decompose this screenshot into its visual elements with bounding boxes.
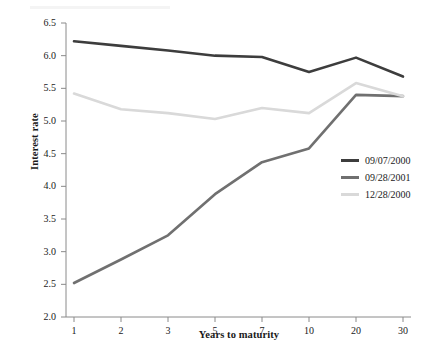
legend-item[interactable]: 09/28/2001 xyxy=(341,169,411,186)
chart-figure: Interest rate Years to maturity 2.02.53.… xyxy=(0,0,432,359)
legend-label: 12/28/2000 xyxy=(365,190,411,200)
legend-item[interactable]: 12/28/2000 xyxy=(341,186,411,203)
legend-swatch-icon xyxy=(341,193,359,196)
series-line xyxy=(74,41,403,76)
legend-swatch-icon xyxy=(341,159,359,162)
legend-label: 09/07/2000 xyxy=(365,156,411,166)
legend-label: 09/28/2001 xyxy=(365,173,411,183)
legend-item[interactable]: 09/07/2000 xyxy=(341,152,411,169)
series-line xyxy=(74,83,403,119)
chart-legend: 09/07/200009/28/200112/28/2000 xyxy=(341,152,411,203)
legend-swatch-icon xyxy=(341,176,359,179)
